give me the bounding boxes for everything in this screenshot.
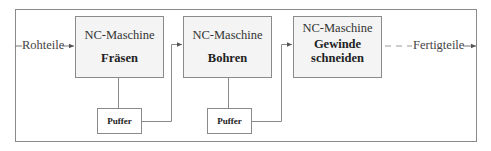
buffer-box-1: Puffer xyxy=(97,108,142,134)
machine-operation: Bohren xyxy=(184,51,271,66)
machine-operation: Fräsen xyxy=(76,51,163,66)
machine-operation-line1: Gewinde xyxy=(294,37,381,51)
output-label-fertigteile: Fertigteile xyxy=(413,38,464,53)
machine-title: NC-Maschine xyxy=(76,28,163,43)
machine-box-fraesen: NC-Maschine Fräsen xyxy=(75,16,164,78)
machine-box-gewinde-schneiden: NC-Maschine Gewinde schneiden xyxy=(293,16,382,78)
machine-title: NC-Maschine xyxy=(294,21,381,36)
machine-operation-line2: schneiden xyxy=(294,51,381,65)
input-label-rohteile: Rohteile xyxy=(22,38,64,53)
machine-title: NC-Maschine xyxy=(184,28,271,43)
buffer-box-2: Puffer xyxy=(207,108,252,134)
machine-box-bohren: NC-Maschine Bohren xyxy=(183,16,272,78)
